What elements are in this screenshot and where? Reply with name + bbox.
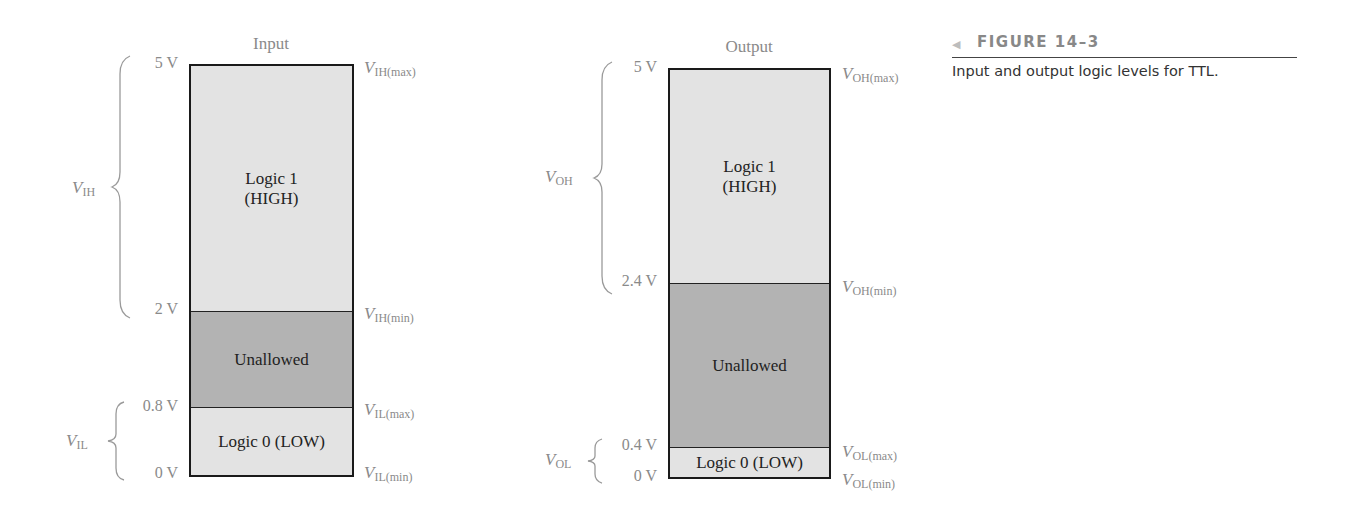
output-zone-logic-1: Logic 1 (HIGH): [670, 70, 829, 283]
figure-label: FIGURE 14–3: [977, 33, 1100, 51]
input-zone-unallowed-label: Unallowed: [234, 350, 309, 370]
output-vol-brace-icon: [584, 436, 608, 486]
input-vih-max-label: VIH(max): [364, 58, 416, 80]
input-vih-brace-label: VIH: [72, 178, 95, 200]
output-vol-brace-label: VOL: [545, 450, 571, 472]
input-title: Input: [186, 34, 356, 54]
input-zone-logic-1-sublabel: (HIGH): [245, 189, 299, 209]
input-zone-logic-1-label: Logic 1: [245, 169, 299, 189]
figure-caption: Input and output logic levels for TTL.: [952, 63, 1219, 79]
input-vil-max-label: VIL(max): [364, 400, 414, 422]
output-voh-brace-icon: [586, 58, 616, 298]
input-zone-logic-1: Logic 1 (HIGH): [191, 66, 352, 311]
output-zone-unallowed-label: Unallowed: [712, 356, 787, 376]
output-vol-min-label: VOL(min): [842, 470, 895, 492]
output-zone-logic-0-label: Logic 0 (LOW): [696, 453, 803, 473]
output-zone-logic-0: Logic 0 (LOW): [670, 447, 829, 477]
input-vil-brace-icon: [104, 398, 130, 484]
input-zone-unallowed: Unallowed: [191, 311, 352, 407]
output-zone-unallowed: Unallowed: [670, 283, 829, 447]
input-vih-min-label: VIH(min): [364, 304, 414, 326]
output-title: Output: [664, 37, 834, 57]
input-zone-logic-0: Logic 0 (LOW): [191, 407, 352, 475]
input-zone-logic-0-label: Logic 0 (LOW): [218, 432, 325, 452]
output-voh-max-label: VOH(max): [842, 64, 898, 86]
output-voh-brace-label: VOH: [545, 167, 573, 189]
input-vih-brace-icon: [104, 52, 134, 322]
output-level-bar: Logic 1 (HIGH) Unallowed Logic 0 (LOW): [668, 68, 831, 479]
input-vil-min-label: VIL(min): [364, 463, 412, 485]
input-vil-brace-label: VIL: [66, 431, 88, 453]
input-level-bar: Logic 1 (HIGH) Unallowed Logic 0 (LOW): [189, 64, 354, 477]
output-vol-max-label: VOL(max): [842, 442, 897, 464]
output-zone-logic-1-sublabel: (HIGH): [723, 177, 777, 197]
caption-rule: [952, 57, 1297, 58]
left-triangle-icon: ◀: [952, 38, 960, 51]
output-voh-min-label: VOH(min): [842, 277, 896, 299]
output-zone-logic-1-label: Logic 1: [723, 157, 777, 177]
